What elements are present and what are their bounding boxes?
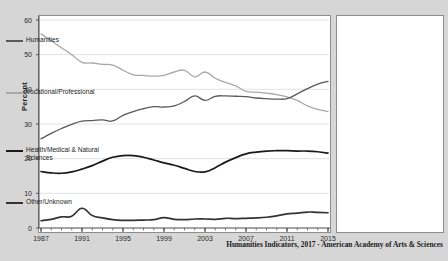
x-tick-label: 2011 [270,235,304,242]
legend-item[interactable]: Health/Medical & Natural Sciences [6,146,108,163]
x-tick-label: 1995 [106,235,140,242]
legend-color-swatch [6,40,23,42]
x-tick-label: 2003 [188,235,222,242]
legend-item[interactable]: Other/Unknown [6,198,108,206]
series-line-vocational-professional [41,34,328,112]
x-tick-label: 2007 [229,235,263,242]
legend-label: Humanities [26,36,59,44]
legend-label: Other/Unknown [26,198,72,206]
y-tick-label: 30 [14,121,32,128]
x-tick-label: 2015 [311,235,345,242]
series-line-other-unknown [41,208,328,220]
x-tick-label: 1991 [65,235,99,242]
y-tick-label: 0 [14,225,32,232]
legend-label: Health/Medical & Natural Sciences [26,146,108,163]
x-tick-label: 1999 [147,235,181,242]
x-tick-label: 1987 [24,235,58,242]
y-tick-label: 60 [14,17,32,24]
legend-item[interactable]: Humanities [6,36,108,44]
legend-color-swatch [6,150,23,152]
legend-color-swatch [6,202,23,204]
y-tick-label: 10 [14,190,32,197]
legend-label: Vocational/Professional [26,88,95,96]
legend-color-swatch [6,92,23,94]
chart-figure: Percent Humanities Indicators, 2017 · Am… [0,0,448,261]
y-tick-label: 50 [14,51,32,58]
legend-item[interactable]: Vocational/Professional [6,88,108,96]
